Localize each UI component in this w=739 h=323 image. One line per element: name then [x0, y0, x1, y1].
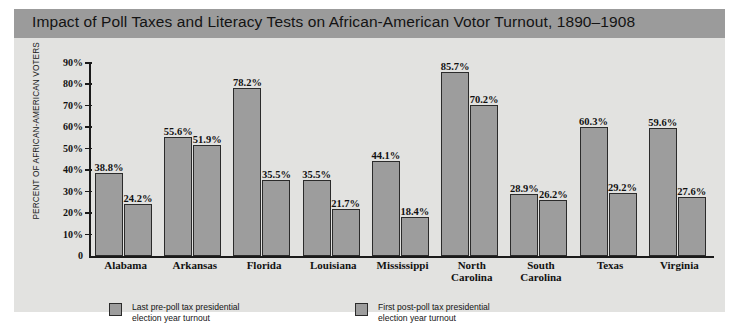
bar[interactable]: 18.4% — [401, 217, 429, 256]
bar-group: 38.8%24.2% — [91, 63, 160, 256]
bar[interactable]: 70.2% — [470, 105, 498, 256]
x-axis-label: Texas — [576, 260, 645, 272]
x-axis-label-line1: North — [458, 259, 486, 271]
bar-value-label: 26.2% — [539, 189, 568, 200]
x-axis-label-line1: Texas — [597, 259, 624, 271]
bar[interactable]: 35.5% — [262, 180, 290, 256]
bar[interactable]: 24.2% — [124, 204, 152, 256]
bar-value-label: 24.2% — [124, 193, 153, 204]
y-tick-label: 20% — [63, 208, 83, 218]
legend-label-line2: election year turnout — [132, 313, 210, 323]
bar[interactable]: 60.3% — [580, 127, 608, 256]
y-tick: 80% — [14, 79, 94, 89]
y-tick: 0 — [14, 251, 94, 261]
bar-value-label: 51.9% — [193, 134, 222, 145]
x-axis-label: NorthCarolina — [437, 260, 506, 283]
bar-value-label: 29.2% — [608, 182, 637, 193]
legend-label-post-poll-tax: First post-poll tax presidential electio… — [378, 302, 490, 323]
legend-item-pre-poll-tax: Last pre-poll tax presidential election … — [109, 302, 239, 323]
bar-value-label: 59.6% — [648, 117, 677, 128]
bar-value-label: 70.2% — [470, 94, 499, 105]
x-axis-label: Mississippi — [368, 260, 437, 272]
bar-group: 44.1%18.4% — [368, 63, 437, 256]
bar[interactable]: 38.8% — [95, 173, 123, 256]
chart-title-bar: Impact of Poll Taxes and Literacy Tests … — [14, 9, 725, 38]
x-axis-label-line1: Virginia — [660, 259, 699, 271]
bar-value-label: 21.7% — [331, 198, 360, 209]
bar-value-label: 78.2% — [233, 77, 262, 88]
bar[interactable]: 21.7% — [332, 209, 360, 256]
y-tick-label: 90% — [63, 58, 83, 68]
y-tick-label: 80% — [63, 79, 83, 89]
x-axis-label: SouthCarolina — [506, 260, 575, 283]
chart-legend: Last pre-poll tax presidential election … — [109, 302, 609, 323]
y-tick: 40% — [14, 165, 94, 175]
x-axis-line — [89, 256, 714, 258]
legend-swatch-icon — [355, 303, 368, 316]
legend-item-post-poll-tax: First post-poll tax presidential electio… — [355, 302, 490, 323]
bar-value-label: 60.3% — [579, 116, 608, 127]
bar-value-label: 18.4% — [400, 206, 429, 217]
y-tick-label: 40% — [63, 165, 83, 175]
x-axis-label-line1: South — [527, 259, 555, 271]
legend-label-line1: Last pre-poll tax presidential — [132, 302, 239, 312]
x-axis-label-line2: Carolina — [506, 272, 575, 284]
bar-value-label: 85.7% — [441, 61, 470, 72]
bar-group: 78.2%35.5% — [229, 63, 298, 256]
bar-value-label: 35.5% — [302, 169, 331, 180]
x-axis-label: Louisiana — [299, 260, 368, 272]
y-tick: 10% — [14, 230, 94, 240]
y-tick: 70% — [14, 101, 94, 111]
bar[interactable]: 55.6% — [164, 137, 192, 256]
y-tick-label: 70% — [63, 101, 83, 111]
y-tick: 50% — [14, 144, 94, 154]
bar[interactable]: 29.2% — [609, 193, 637, 256]
bar-value-label: 27.6% — [677, 186, 706, 197]
bar-value-label: 35.5% — [262, 169, 291, 180]
x-axis-label-line1: Arkansas — [173, 259, 218, 271]
bar-value-label: 55.6% — [164, 126, 193, 137]
x-axis-labels: AlabamaArkansasFloridaLouisianaMississip… — [91, 260, 714, 294]
y-tick-label: 60% — [63, 122, 83, 132]
legend-label-line1: First post-poll tax presidential — [378, 302, 490, 312]
x-axis-label: Virginia — [645, 260, 714, 272]
y-tick-label: 30% — [63, 187, 83, 197]
chart-title: Impact of Poll Taxes and Literacy Tests … — [32, 13, 635, 31]
bar[interactable]: 59.6% — [649, 128, 677, 256]
y-tick: 30% — [14, 187, 94, 197]
x-axis-label-line2: Carolina — [437, 272, 506, 284]
x-axis-label: Arkansas — [160, 260, 229, 272]
x-axis-label-line1: Louisiana — [310, 259, 356, 271]
bar-group: 28.9%26.2% — [506, 63, 575, 256]
x-axis-label-line1: Alabama — [104, 259, 147, 271]
y-tick: 90% — [14, 58, 94, 68]
bar[interactable]: 85.7% — [441, 72, 469, 256]
y-tick-label: 50% — [63, 144, 83, 154]
x-axis-label-line1: Florida — [247, 259, 282, 271]
x-axis-label-line1: Mississippi — [377, 259, 429, 271]
bars-layer: 38.8%24.2%55.6%51.9%78.2%35.5%35.5%21.7%… — [91, 63, 714, 256]
legend-swatch-icon — [109, 303, 122, 316]
legend-label-pre-poll-tax: Last pre-poll tax presidential election … — [132, 302, 239, 323]
bar[interactable]: 51.9% — [193, 145, 221, 256]
bar-group: 35.5%21.7% — [299, 63, 368, 256]
legend-label-line2: election year turnout — [378, 313, 456, 323]
plot-area: PERCENT OF AFRICAN-AMERICAN VOTERS 010%2… — [14, 38, 725, 312]
bar[interactable]: 44.1% — [372, 161, 400, 256]
bar-value-label: 28.9% — [510, 183, 539, 194]
bar-value-label: 44.1% — [371, 150, 400, 161]
x-axis-label: Florida — [229, 260, 298, 272]
y-tick: 20% — [14, 208, 94, 218]
bar[interactable]: 35.5% — [303, 180, 331, 256]
x-axis-label: Alabama — [91, 260, 160, 272]
bar-group: 60.3%29.2% — [576, 63, 645, 256]
bar-value-label: 38.8% — [95, 162, 124, 173]
y-tick-label: 10% — [63, 230, 83, 240]
bar[interactable]: 28.9% — [510, 194, 538, 256]
bar-group: 55.6%51.9% — [160, 63, 229, 256]
y-tick-label: 0 — [78, 251, 83, 261]
bar-group: 85.7%70.2% — [437, 63, 506, 256]
bar[interactable]: 26.2% — [539, 200, 567, 256]
bar[interactable]: 78.2% — [233, 88, 261, 256]
bar[interactable]: 27.6% — [678, 197, 706, 256]
